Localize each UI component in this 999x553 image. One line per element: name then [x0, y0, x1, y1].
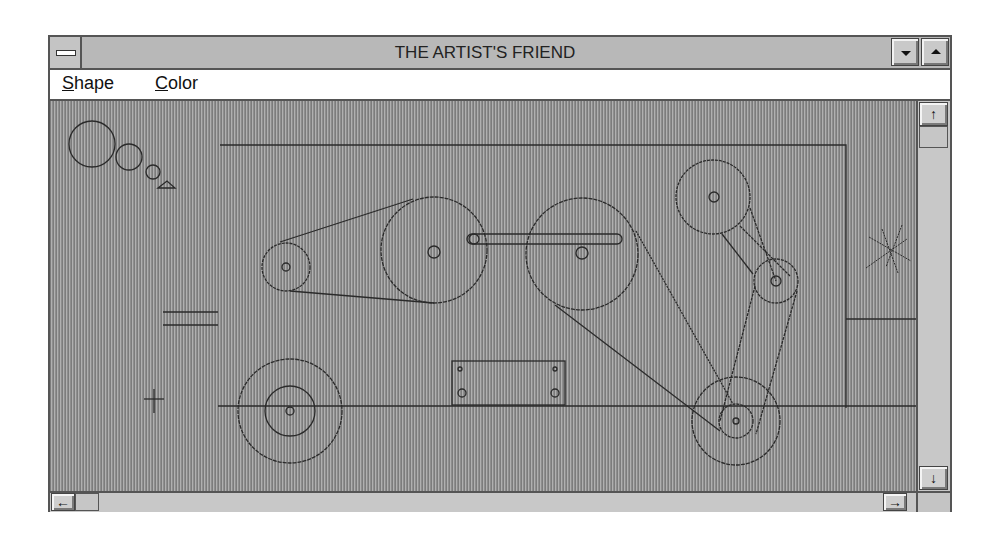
- palette-circle-medium[interactable]: [116, 144, 142, 170]
- app-window: THE ARTIST'S FRIEND Shape Color: [48, 35, 952, 512]
- system-menu-button[interactable]: [50, 37, 82, 68]
- drawing-svg: [50, 101, 916, 491]
- title-bar[interactable]: THE ARTIST'S FRIEND: [50, 37, 950, 70]
- menu-shape-label: hape: [74, 73, 114, 93]
- palette-circle-large[interactable]: [69, 121, 115, 167]
- minimize-button[interactable]: [891, 38, 919, 66]
- arrow-right-icon: →: [888, 494, 902, 510]
- menu-color[interactable]: Color: [155, 73, 198, 94]
- window-title: THE ARTIST'S FRIEND: [84, 37, 886, 68]
- arrow-down-icon: ↓: [930, 470, 937, 486]
- palette-triangle[interactable]: [158, 181, 175, 188]
- scroll-up-button[interactable]: ↑: [919, 102, 948, 126]
- scroll-down-button[interactable]: ↓: [919, 466, 948, 490]
- scroll-left-button[interactable]: ←: [51, 493, 75, 511]
- menu-shape[interactable]: Shape: [62, 73, 114, 94]
- vertical-scrollbar[interactable]: ↑ ↓: [916, 101, 950, 491]
- menu-color-mnemonic: C: [155, 73, 168, 93]
- scrollbar-corner: [916, 491, 950, 512]
- menu-color-label: olor: [168, 73, 198, 93]
- system-menu-icon: [56, 50, 76, 56]
- maximize-button[interactable]: [921, 38, 949, 66]
- vertical-scroll-thumb[interactable]: [919, 126, 948, 148]
- horizontal-scrollbar[interactable]: ← →: [50, 491, 916, 512]
- triangle-up-icon: [931, 49, 941, 54]
- drawing-canvas[interactable]: [50, 101, 916, 491]
- menu-bar: Shape Color: [50, 70, 950, 101]
- triangle-down-icon: [901, 51, 911, 56]
- palette-circle-small[interactable]: [146, 165, 160, 179]
- arrow-up-icon: ↑: [930, 106, 937, 122]
- menu-shape-mnemonic: S: [62, 73, 74, 93]
- scroll-right-button[interactable]: →: [883, 493, 907, 511]
- arrow-left-icon: ←: [56, 494, 70, 510]
- horizontal-scroll-thumb[interactable]: [75, 493, 99, 511]
